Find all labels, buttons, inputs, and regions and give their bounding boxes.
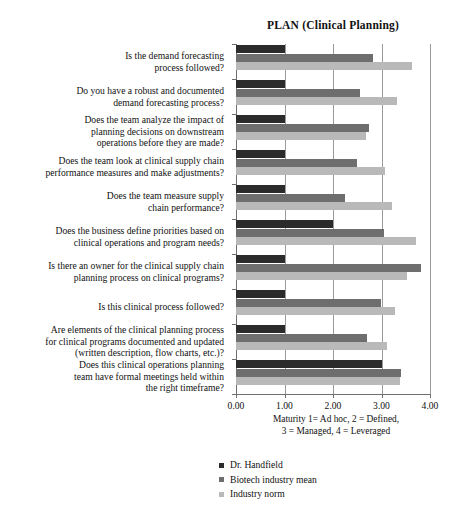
category-label-line: Does the business define priorities base… (0, 225, 224, 236)
category-label-line: clinical operations and program needs? (0, 237, 224, 248)
category-label: Does the business define priorities base… (0, 225, 224, 248)
legend-item: Industry norm (219, 487, 317, 502)
x-tick-labels: 0.001.002.003.004.00 (236, 398, 430, 412)
bar-2 (236, 159, 357, 167)
bar-2 (236, 229, 384, 237)
category-label-line: Does the team measure supply (0, 190, 224, 201)
category-label-line: Does the team analyze the impact of (0, 114, 224, 125)
y-axis-tick (232, 44, 236, 45)
bar-2 (236, 334, 367, 342)
bar-1 (236, 325, 285, 333)
category-label-line: Does this clinical operations planning (0, 359, 224, 370)
category-label-line: chain performance? (0, 202, 224, 213)
category-label-line: Are elements of the clinical planning pr… (0, 324, 224, 335)
x-axis-caption-line-1: Maturity 1= Ad hoc, 2 = Defined, (236, 414, 436, 426)
chart-title: PLAN (Clinical Planning) (236, 18, 430, 32)
x-axis-tick-mark (382, 394, 383, 398)
category-label-line: for clinical programs documented and upd… (0, 336, 224, 347)
bar-2 (236, 54, 373, 62)
x-axis-tick-mark (236, 394, 237, 398)
category-label-line: Is there an owner for the clinical suppl… (0, 260, 224, 271)
legend-label: Industry norm (230, 487, 285, 502)
bar-2 (236, 124, 369, 132)
category-label-line: planning process on clinical programs? (0, 272, 224, 283)
bar-3 (236, 132, 366, 140)
bar-group (236, 254, 430, 289)
category-label-line: (written description, flow charts, etc.)… (0, 347, 224, 358)
bar-3 (236, 62, 412, 70)
category-label-line: operations before they are made? (0, 137, 224, 148)
bar-1 (236, 45, 285, 53)
bar-group (236, 359, 430, 394)
bar-3 (236, 237, 416, 245)
bar-3 (236, 272, 407, 280)
bar-3 (236, 97, 397, 105)
category-label-line: Is the demand forecasting (0, 50, 224, 61)
category-label-line: Do you have a robust and documented (0, 85, 224, 96)
bar-1 (236, 150, 285, 158)
bar-2 (236, 194, 345, 202)
gridline-4.00 (430, 44, 431, 394)
legend-label: Biotech industry mean (230, 473, 317, 488)
category-label-line: process followed? (0, 62, 224, 73)
chart-legend: Dr. HandfieldBiotech industry meanIndust… (219, 458, 317, 502)
bar-1 (236, 220, 333, 228)
category-label: Is the demand forecastingprocess followe… (0, 50, 224, 73)
category-label: Does this clinical operations planningte… (0, 359, 224, 393)
category-label-line: the right timeframe? (0, 382, 224, 393)
bar-1 (236, 360, 382, 368)
legend-swatch-icon (219, 477, 224, 482)
plot-area (236, 44, 430, 394)
x-tick-label: 0.00 (228, 400, 245, 411)
bar-3 (236, 167, 385, 175)
bar-group (236, 184, 430, 219)
x-tick-label: 3.00 (373, 400, 390, 411)
bar-1 (236, 255, 285, 263)
category-label-line: performance measures and make adjustment… (0, 167, 224, 178)
bar-group (236, 324, 430, 359)
bar-group (236, 219, 430, 254)
category-label-line: team have formal meetings held within (0, 371, 224, 382)
x-axis-tick-mark (285, 394, 286, 398)
bar-groups (236, 44, 430, 394)
bar-3 (236, 202, 392, 210)
bar-3 (236, 342, 387, 350)
legend-item: Dr. Handfield (219, 458, 317, 473)
bar-3 (236, 307, 395, 315)
bar-1 (236, 80, 285, 88)
category-label: Does the team look at clinical supply ch… (0, 155, 224, 178)
category-label: Is this clinical process followed? (0, 301, 224, 312)
bar-1 (236, 290, 285, 298)
x-axis-tick-mark (430, 394, 431, 398)
bar-2 (236, 264, 421, 272)
x-tick-label: 1.00 (276, 400, 293, 411)
bar-group (236, 149, 430, 184)
bar-1 (236, 185, 285, 193)
bar-group (236, 79, 430, 114)
category-label: Are elements of the clinical planning pr… (0, 324, 224, 358)
legend-item: Biotech industry mean (219, 473, 317, 488)
category-label-line: planning decisions on downstream (0, 126, 224, 137)
category-label: Is there an owner for the clinical suppl… (0, 260, 224, 283)
bar-2 (236, 89, 360, 97)
legend-swatch-icon (219, 492, 224, 497)
category-label: Does the team analyze the impact ofplann… (0, 114, 224, 148)
bar-1 (236, 115, 285, 123)
legend-swatch-icon (219, 463, 224, 468)
x-axis-caption-line-2: 3 = Managed, 4 = Leveraged (236, 426, 436, 438)
category-label-line: Is this clinical process followed? (0, 301, 224, 312)
bar-group (236, 114, 430, 149)
x-tick-label: 2.00 (325, 400, 342, 411)
category-label-line: demand forecasting process? (0, 97, 224, 108)
bar-group (236, 289, 430, 324)
category-label: Do you have a robust and documenteddeman… (0, 85, 224, 108)
x-tick-label: 4.00 (422, 400, 439, 411)
bar-2 (236, 299, 381, 307)
category-label: Does the team measure supplychain perfor… (0, 190, 224, 213)
bar-2 (236, 369, 401, 377)
x-axis-caption: Maturity 1= Ad hoc, 2 = Defined, 3 = Man… (236, 414, 436, 438)
bar-chart: PLAN (Clinical Planning) Is the demand f… (0, 0, 462, 523)
x-axis-tick-mark (333, 394, 334, 398)
legend-label: Dr. Handfield (230, 458, 283, 473)
category-axis-labels: Is the demand forecastingprocess followe… (0, 44, 232, 394)
